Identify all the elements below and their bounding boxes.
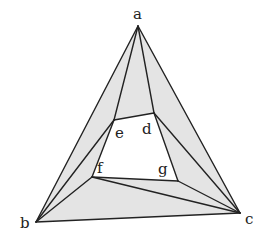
vertex-label-c: c (245, 210, 253, 228)
vertex-label-b: b (20, 214, 30, 232)
vertex-label-e: e (115, 124, 124, 142)
vertex-label-a: a (133, 5, 142, 23)
vertex-label-g: g (158, 160, 168, 178)
vertex-label-d: d (142, 120, 152, 138)
graph-diagram: a b c d e f g (0, 0, 268, 240)
